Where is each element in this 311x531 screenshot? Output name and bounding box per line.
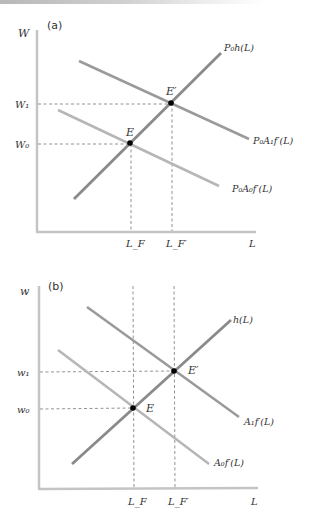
panel-b-lf-prime-label: L_F′ xyxy=(167,496,190,508)
panel-a-supply-label: P₀h(L) xyxy=(223,42,254,53)
panel-a-w1-label: W₁ xyxy=(15,99,29,110)
panel-a-point-e xyxy=(127,140,133,146)
panel-b-w0-guide xyxy=(40,408,133,409)
panel-b-e-prime-label: E′ xyxy=(187,364,199,377)
panel-a-demand-new-curve xyxy=(79,61,249,139)
panel-a-demand-new-label: P₀A₁f′(L) xyxy=(252,135,294,146)
panel-b-point-e-prime xyxy=(171,368,177,374)
panel-a-e-label: E xyxy=(125,126,134,139)
panel-b-point-e xyxy=(130,405,136,411)
panel-b-lf-prime-guide xyxy=(174,286,175,488)
panel-b-demand-new-curve xyxy=(87,307,239,417)
labor-market-diagram: (a) W E E′ W₁ W₀ L_F L_F′ L P₀h(L) P₀A₁f… xyxy=(0,0,311,531)
panel-b-y-axis-label: w xyxy=(20,285,30,298)
panel-a-label: (a) xyxy=(47,19,62,32)
panel-b-e-label: E xyxy=(145,402,154,415)
panel-b-x-axis xyxy=(38,488,258,489)
panel-b-supply-label: h(L) xyxy=(233,314,253,325)
panel-b-w1-label: w₁ xyxy=(17,367,30,378)
panel-b-demand-old-label: A₀f′(L) xyxy=(213,457,244,468)
panel-a: (a) W E E′ W₁ W₀ L_F L_F′ L P₀h(L) P₀A₁f… xyxy=(15,19,294,250)
panel-b-w1-guide xyxy=(40,371,174,372)
panel-b-supply-curve xyxy=(72,320,231,464)
panel-a-lf-prime-label: L_F′ xyxy=(165,238,188,250)
panel-b-lf-label: L_F xyxy=(127,496,148,508)
panel-a-y-axis-label: W xyxy=(18,27,31,40)
panel-a-point-e-prime xyxy=(168,100,174,106)
panel-a-e-prime-label: E′ xyxy=(165,85,177,98)
panel-b-w0-label: w₀ xyxy=(17,404,30,415)
panel-b-demand-new-label: A₁f′(L) xyxy=(243,416,274,427)
panel-b: (b) w E E′ w₁ w₀ L_F L_F′ L h(L) A₁f′(L)… xyxy=(17,280,274,508)
panel-b-label: (b) xyxy=(48,280,64,293)
panel-a-demand-old-curve xyxy=(58,110,219,186)
panel-a-x-axis-label: L xyxy=(248,238,256,249)
panel-a-demand-old-label: P₀A₀f′(L) xyxy=(231,183,273,194)
panel-a-w0-label: W₀ xyxy=(15,139,29,150)
panel-b-x-axis-label: L xyxy=(250,496,258,507)
panel-b-lf-guide xyxy=(133,286,134,488)
panel-a-lf-label: L_F xyxy=(125,238,146,250)
